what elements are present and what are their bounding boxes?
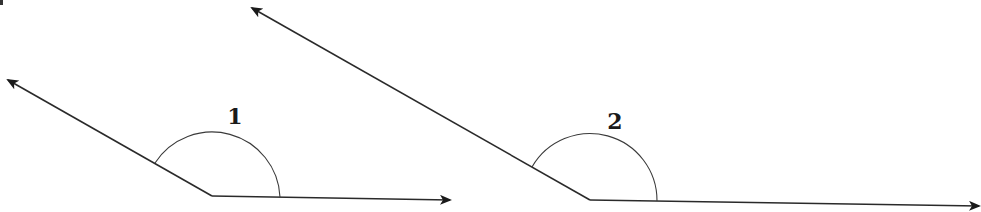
angle-1: 1	[8, 80, 450, 200]
angle-diagram: 1 2	[0, 0, 981, 212]
angle-2-arc	[532, 134, 657, 201]
angle-1-label: 1	[227, 103, 242, 129]
angle-1-ray-right	[212, 196, 450, 200]
angle-1-ray-left	[8, 80, 212, 196]
angle-2-ray-right	[590, 200, 979, 206]
corner-mark	[0, 0, 3, 5]
angle-2-label: 2	[607, 108, 622, 134]
angle-2-ray-left	[252, 8, 590, 200]
angle-2: 2	[252, 8, 979, 206]
angle-1-arc	[155, 132, 280, 197]
